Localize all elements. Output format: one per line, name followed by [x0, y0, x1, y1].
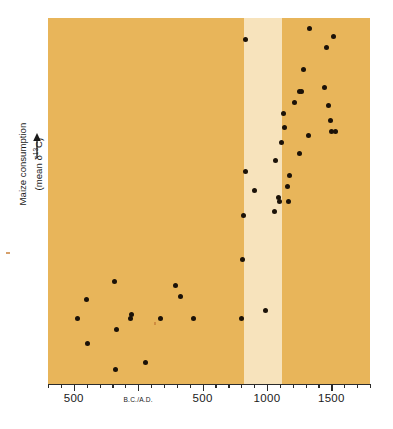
x-axis-tick-label: B.C./A.D.: [124, 396, 153, 403]
x-axis-tick-label: 1000: [254, 392, 281, 404]
scatter-point: [239, 316, 244, 321]
scatter-point: [301, 67, 306, 72]
x-axis-tick-label: 500: [64, 392, 84, 404]
scatter-point: [331, 34, 336, 39]
scatter-point: [328, 118, 333, 123]
y-axis-label-superscript: 13: [31, 148, 38, 155]
scatter-point: [243, 169, 248, 174]
scatter-point: [299, 89, 304, 94]
scatter-point: [324, 45, 329, 50]
x-axis-major-tick: [74, 384, 75, 391]
scan-speck: [6, 252, 10, 254]
scatter-point: [286, 199, 291, 204]
x-axis-minor-tick: [215, 384, 216, 388]
y-axis-label-suffix: C): [33, 138, 44, 148]
x-axis-minor-tick: [87, 384, 88, 388]
y-axis-label-prefix: (mean δ: [33, 155, 44, 190]
scatter-point: [114, 327, 119, 332]
x-axis-tick-label: 1500: [318, 392, 345, 404]
scatter-point: [307, 26, 312, 31]
scatter-point: [158, 316, 163, 321]
x-axis-minor-tick: [151, 384, 152, 388]
x-axis-minor-tick: [241, 384, 242, 388]
x-axis-minor-tick: [254, 384, 255, 388]
x-axis-minor-tick: [318, 384, 319, 388]
scan-speck: [154, 322, 156, 325]
scatter-point: [326, 103, 331, 108]
scatter-point: [84, 297, 89, 302]
scatter-point: [129, 312, 134, 317]
scatter-point: [143, 360, 148, 365]
x-axis-minor-tick: [112, 384, 113, 388]
x-axis-minor-tick: [306, 384, 307, 388]
scatter-point: [75, 316, 80, 321]
scatter-point: [282, 125, 287, 130]
scatter-point: [277, 199, 282, 204]
scatter-point: [322, 85, 327, 90]
x-axis-major-tick: [203, 384, 204, 391]
scatter-point: [191, 316, 196, 321]
scatter-point: [297, 151, 302, 156]
scatter-point: [252, 188, 257, 193]
scatter-point: [173, 283, 178, 288]
x-axis-major-tick: [331, 384, 332, 391]
x-axis-major-tick: [267, 384, 268, 391]
scatter-point: [240, 257, 245, 262]
x-axis-tick-label: 500: [193, 392, 213, 404]
x-axis-minor-tick: [61, 384, 62, 388]
scatter-point: [85, 341, 90, 346]
x-axis-minor-tick: [228, 384, 229, 388]
chart-figure: Maize consumption (mean δ13C) 500B.C./A.…: [0, 0, 393, 429]
x-axis-minor-tick: [344, 384, 345, 388]
scatter-point: [178, 294, 183, 299]
x-axis-minor-tick: [125, 384, 126, 388]
scatter-point: [333, 129, 338, 134]
scatter-point: [287, 173, 292, 178]
x-axis-line: [48, 384, 370, 385]
scatter-point: [112, 279, 117, 284]
scatter-point: [281, 111, 286, 116]
scatter-point: [306, 133, 311, 138]
y-axis-label: Maize consumption (mean δ13C): [17, 89, 45, 239]
x-axis-minor-tick: [293, 384, 294, 388]
plot-area: [48, 18, 370, 384]
x-axis-minor-tick: [280, 384, 281, 388]
x-axis-minor-tick: [357, 384, 358, 388]
scatter-point: [113, 367, 118, 372]
x-axis-minor-tick: [100, 384, 101, 388]
y-axis-label-line1: Maize consumption: [17, 89, 30, 239]
scatter-point: [279, 140, 284, 145]
x-axis-minor-tick: [48, 384, 49, 388]
x-axis-major-tick: [138, 384, 139, 391]
x-axis-minor-tick: [177, 384, 178, 388]
scatter-point: [292, 100, 297, 105]
scatter-point: [285, 184, 290, 189]
y-axis-label-line2: (mean δ13C): [29, 89, 45, 239]
x-axis-minor-tick: [370, 384, 371, 388]
x-axis-minor-tick: [164, 384, 165, 388]
x-axis-minor-tick: [190, 384, 191, 388]
